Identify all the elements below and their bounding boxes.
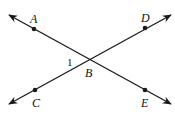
intersecting-lines-diagram: A D C E B 1 [0,0,175,114]
angle-1-label: 1 [67,56,73,68]
label-C: C [32,96,41,110]
label-A: A [29,12,38,26]
label-B: B [85,66,93,80]
label-D: D [140,11,150,25]
label-E: E [140,96,149,110]
point-C [33,88,38,93]
point-D [143,26,148,31]
point-A [32,27,37,32]
point-E [143,88,148,93]
